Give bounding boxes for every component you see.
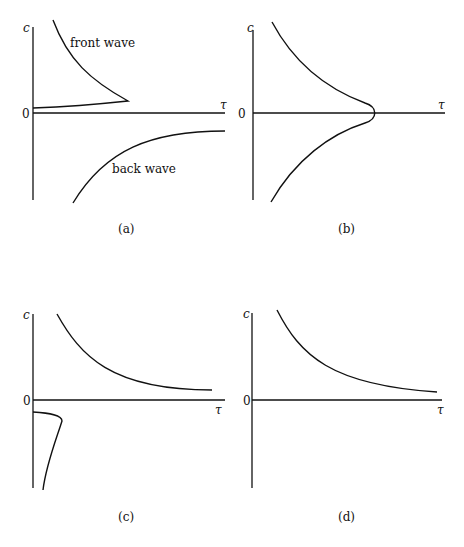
zero-label: 0 xyxy=(238,107,246,121)
x-axis-label: τ xyxy=(437,403,444,417)
y-axis-label: c xyxy=(243,307,250,321)
figure: c 0 τ front wave back wave (a) c 0 τ (b)… xyxy=(0,0,464,547)
caption-b: (b) xyxy=(338,222,355,236)
front-wave-label: front wave xyxy=(70,36,135,50)
x-axis-label: τ xyxy=(438,98,445,112)
upper-branch-curve xyxy=(277,310,437,392)
caption-d: (d) xyxy=(338,510,355,524)
panel-c: c 0 τ (c) xyxy=(23,308,225,524)
x-axis-label: τ xyxy=(220,98,227,112)
caption-a: (a) xyxy=(118,222,135,236)
zero-label: 0 xyxy=(23,394,31,408)
panel-a: c 0 τ front wave back wave (a) xyxy=(22,20,227,236)
y-axis-label: c xyxy=(23,21,30,35)
zero-label: 0 xyxy=(22,107,30,121)
upper-branch-curve xyxy=(57,314,212,390)
merged-wave-curve xyxy=(271,22,375,202)
zero-label: 0 xyxy=(243,394,251,408)
x-axis-label: τ xyxy=(215,403,222,417)
back-wave-label: back wave xyxy=(112,162,176,176)
panel-b: c 0 τ (b) xyxy=(238,21,445,236)
caption-c: (c) xyxy=(118,510,134,524)
y-axis-label: c xyxy=(247,21,254,35)
lower-branch-curve xyxy=(33,412,62,490)
front-wave-curve xyxy=(33,20,128,108)
panel-d: c 0 τ (d) xyxy=(243,307,444,524)
y-axis-label: c xyxy=(23,308,30,322)
